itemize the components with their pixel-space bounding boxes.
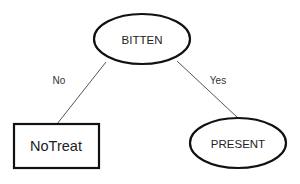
edge-label-yes: Yes bbox=[210, 75, 226, 86]
edge-bitten-notreat: No bbox=[53, 62, 106, 124]
edge-line-yes bbox=[177, 61, 238, 118]
node-notreat-label: NoTreat bbox=[30, 138, 82, 154]
decision-tree-diagram: No Yes BITTEN NoTreat PRESENT bbox=[0, 0, 300, 184]
node-bitten-label: BITTEN bbox=[122, 34, 163, 46]
edge-label-no: No bbox=[53, 75, 66, 86]
node-present-label: PRESENT bbox=[211, 138, 265, 150]
node-notreat: NoTreat bbox=[14, 124, 99, 168]
edge-bitten-present: Yes bbox=[177, 61, 238, 118]
node-bitten: BITTEN bbox=[94, 14, 190, 64]
node-present: PRESENT bbox=[190, 118, 286, 168]
edge-line-no bbox=[57, 62, 106, 124]
